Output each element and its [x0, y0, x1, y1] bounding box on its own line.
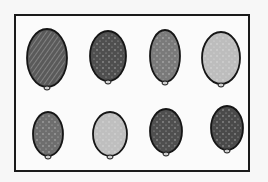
specimen-5 [33, 112, 63, 159]
specimen-4 [202, 32, 240, 87]
specimen-3 [150, 30, 180, 85]
specimen-1 [27, 29, 67, 90]
specimen-8 [211, 106, 243, 153]
specimen-drawing [0, 0, 268, 182]
specimen-2 [90, 31, 126, 84]
specimen-6 [93, 112, 127, 159]
specimen-7 [150, 109, 182, 156]
